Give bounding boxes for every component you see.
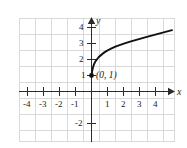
x-tick-label-neg4: -4 bbox=[23, 100, 31, 109]
x-tick-label-neg3: -3 bbox=[39, 100, 47, 109]
x-tick-label-neg2: -2 bbox=[55, 100, 63, 109]
x-tick-label-pos1: 1 bbox=[105, 100, 110, 109]
x-axis-label: x bbox=[177, 87, 181, 97]
y-tick-label-pos3: 3 bbox=[79, 39, 84, 48]
point-marker-0-1 bbox=[89, 73, 94, 78]
y-tick-label-pos1: 1 bbox=[81, 71, 86, 80]
y-tick-label-neg2: -2 bbox=[75, 119, 83, 128]
x-tick-label-neg1: -1 bbox=[71, 100, 79, 109]
x-tick-label-pos3: 3 bbox=[137, 100, 142, 109]
coordinate-plane-svg bbox=[0, 0, 187, 148]
y-tick-label-pos4: 4 bbox=[79, 23, 84, 32]
graph-figure: -4 -3 -2 -1 1 2 3 4 4 3 2 1 -2 x y (0, 1… bbox=[0, 0, 187, 148]
y-axis-label: y bbox=[96, 16, 100, 26]
x-tick-label-pos4: 4 bbox=[153, 100, 158, 109]
y-tick-label-pos2: 2 bbox=[79, 55, 84, 64]
point-annotation-label: (0, 1) bbox=[96, 71, 117, 81]
x-tick-label-pos2: 2 bbox=[121, 100, 126, 109]
x-axis bbox=[19, 88, 175, 95]
